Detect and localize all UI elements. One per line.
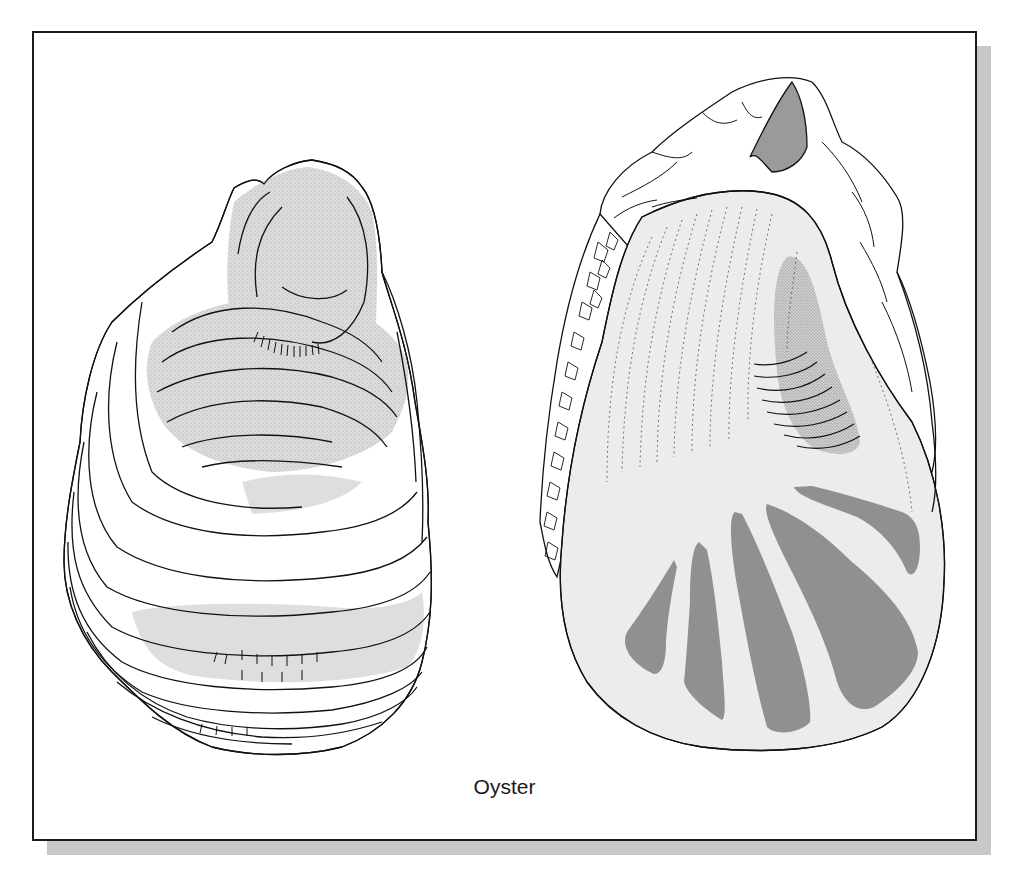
oyster-shell-interior — [540, 78, 945, 751]
oyster-illustration — [34, 33, 975, 839]
figure-frame: Oyster — [32, 31, 977, 841]
oyster-shell-exterior — [64, 160, 431, 755]
figure-caption: Oyster — [34, 775, 975, 799]
